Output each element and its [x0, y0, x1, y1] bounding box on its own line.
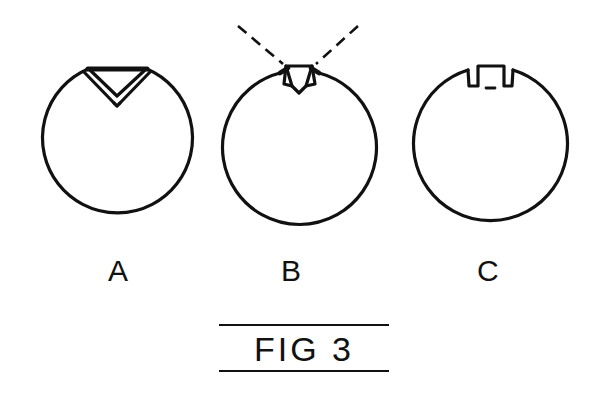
- figure-c-rectangular-slot: [468, 66, 513, 86]
- figure-b-group: [222, 26, 376, 224]
- drawing-sheet: A B C FIG 3: [0, 0, 594, 395]
- figure-caption-text: FIG 3: [219, 329, 389, 369]
- caption-rule-top: [219, 324, 389, 326]
- figure-caption-block: FIG 3: [219, 324, 389, 374]
- figure-a-ring-outline: [43, 69, 193, 213]
- figure-c-ring-outline: [413, 70, 567, 221]
- figure-b-left-dashed-leader-icon: [238, 26, 283, 64]
- figure-b-right-dashed-leader-icon: [316, 26, 358, 64]
- figure-a-v-notch: [90, 70, 145, 96]
- figure-b-ring-outline: [222, 73, 376, 224]
- figure-label-c: C: [477, 256, 499, 286]
- figure-c-group: [413, 66, 567, 221]
- figure-a-notch-apex: [114, 103, 120, 106]
- figure-a-group: [43, 69, 193, 213]
- caption-rule-bottom: [219, 370, 389, 372]
- figure-label-b: B: [281, 256, 301, 286]
- figure-b-tapered-notch: [286, 66, 312, 93]
- figure-label-a: A: [108, 256, 128, 286]
